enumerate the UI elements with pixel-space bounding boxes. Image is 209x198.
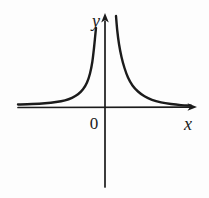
x-axis-label: x [183,114,192,134]
y-axis-label: y [90,11,100,31]
plot-canvas: y x 0 [0,0,209,198]
origin-label: 0 [90,114,99,133]
curve-left-branch [18,28,96,105]
function-graph-figure: y x 0 [0,0,209,198]
curve-right-branch [116,16,191,106]
